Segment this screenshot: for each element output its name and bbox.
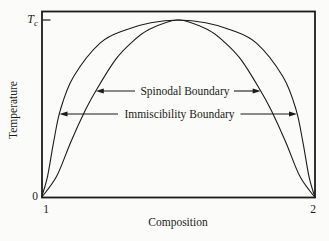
- immiscibility-boundary-label: Immiscibility Boundary: [120, 108, 239, 120]
- immiscibility-left-arrow: [60, 111, 119, 116]
- immiscibility-right-arrow: [241, 111, 298, 116]
- spinodal-boundary-label: Spinodal Boundary: [137, 85, 233, 97]
- tc-axis-label: Tc: [0, 13, 38, 29]
- x-tick-label-two: 2: [303, 203, 323, 215]
- y-tick-label-zero: 0: [18, 190, 38, 202]
- spinodal-left-arrow: [96, 88, 135, 93]
- phase-diagram-figure: Tc Temperature 0 1 2 Composition Spinoda…: [0, 0, 329, 241]
- plot-frame: [42, 12, 315, 198]
- spinodal-right-arrow: [234, 88, 261, 93]
- x-axis-title: Composition: [108, 216, 248, 228]
- tc-subscript: c: [34, 18, 38, 28]
- tc-symbol: T: [27, 12, 34, 26]
- x-tick-label-one: 1: [36, 203, 56, 215]
- y-axis-title: Temperature: [6, 50, 20, 170]
